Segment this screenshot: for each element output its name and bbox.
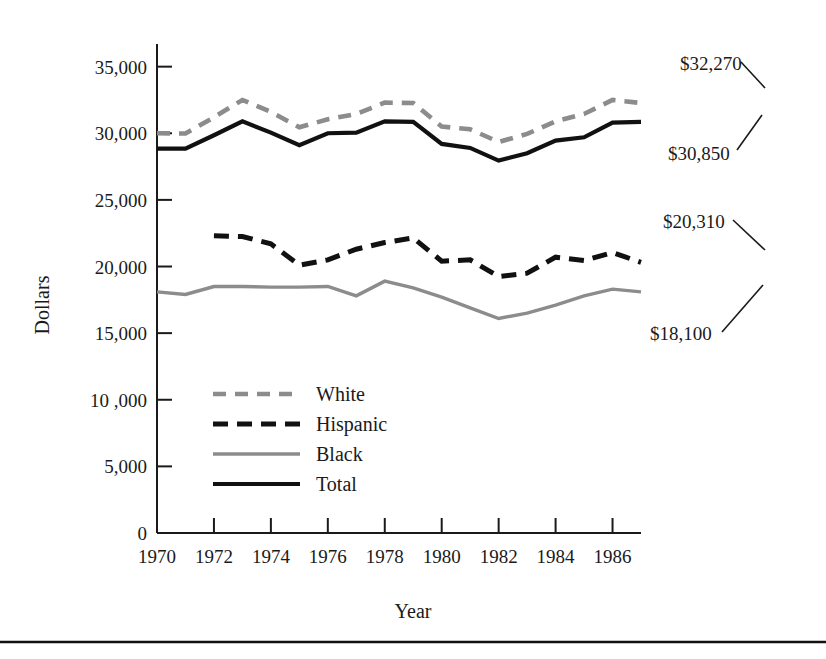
chart-canvas: Dollars Year 05,00010 ,00015,00020,00025… xyxy=(0,0,826,659)
series-group xyxy=(157,100,641,319)
x-axis-tick-label: 1970 xyxy=(138,546,176,567)
annotation-leader-line xyxy=(741,62,765,88)
series-line-hispanic xyxy=(214,236,641,277)
value-annotation: $18,100 xyxy=(650,323,712,344)
y-axis-tick-label: 25,000 xyxy=(95,190,147,211)
annotation-leader-line xyxy=(737,115,762,150)
annotation-leader-line xyxy=(722,285,763,332)
x-axis-tick-label: 1982 xyxy=(480,546,518,567)
series-line-total xyxy=(157,121,641,160)
value-annotation: $30,850 xyxy=(668,143,730,164)
y-axis-tick-label: 35,000 xyxy=(95,57,147,78)
value-annotation: $20,310 xyxy=(663,211,725,232)
y-axis-title: Dollars xyxy=(31,275,53,334)
x-axis-tick-label: 1976 xyxy=(309,546,347,567)
annotation-leader-line xyxy=(733,220,765,250)
value-annotation: $32,270 xyxy=(680,53,742,74)
y-axis-tick-label: 5,000 xyxy=(104,456,147,477)
y-axis-tick-label: 10 ,000 xyxy=(90,390,147,411)
y-axis-tick-label: 30,000 xyxy=(95,123,147,144)
legend-label-total: Total xyxy=(316,473,357,495)
legend-label-hispanic: Hispanic xyxy=(316,413,387,436)
y-axis-tick-label: 0 xyxy=(138,523,148,544)
x-axis-tick-label: 1978 xyxy=(366,546,404,567)
annotation-group: $32,270$30,850$20,310$18,100 xyxy=(650,53,765,344)
x-axis-tick-label: 1980 xyxy=(423,546,461,567)
y-axis-tick-label: 15,000 xyxy=(95,323,147,344)
legend-group: WhiteHispanicBlackTotal xyxy=(213,383,387,495)
x-axis-tick-group: 197019721974197619781980198219841986 xyxy=(138,518,632,567)
x-axis-title: Year xyxy=(395,600,432,622)
x-axis-tick-label: 1986 xyxy=(594,546,632,567)
income-by-race-line-chart: Dollars Year 05,00010 ,00015,00020,00025… xyxy=(0,0,826,659)
x-axis-tick-label: 1974 xyxy=(252,546,291,567)
series-line-black xyxy=(157,281,641,318)
legend-label-black: Black xyxy=(316,443,363,465)
x-axis-tick-label: 1984 xyxy=(537,546,576,567)
x-axis-tick-label: 1972 xyxy=(195,546,233,567)
y-axis-tick-group: 05,00010 ,00015,00020,00025,00030,00035,… xyxy=(90,57,172,544)
legend-label-white: White xyxy=(316,383,365,405)
y-axis-tick-label: 20,000 xyxy=(95,257,147,278)
